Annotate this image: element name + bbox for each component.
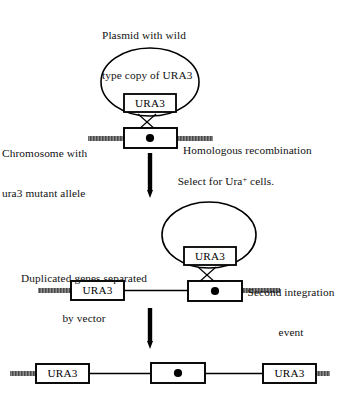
select-ura-label: Select for Ura+ cells. bbox=[166, 162, 296, 202]
homologous-recombination-text: Homologous recombination bbox=[183, 144, 339, 157]
crossover-x-step2 bbox=[198, 267, 216, 283]
plasmid-ura3-label-step2: URA3 bbox=[184, 250, 236, 262]
chromosome-ura3-label-step2: URA3 bbox=[71, 284, 124, 296]
second-integration-line2: event bbox=[243, 326, 339, 339]
chromosome-label-line2: ura3 mutant allele bbox=[2, 187, 94, 200]
second-integration-label: Second integration event bbox=[243, 259, 339, 366]
crossover-x-step1 bbox=[138, 114, 156, 130]
chromosome-label: Chromosome with ura3 mutant allele bbox=[2, 120, 94, 227]
select-ura-suffix: cells. bbox=[247, 175, 274, 187]
second-integration-line1: Second integration bbox=[243, 286, 339, 299]
select-ura-prefix: Select for Ura bbox=[178, 175, 243, 187]
diagram-figure: Plasmid with wild type copy of URA3 Chro… bbox=[0, 0, 340, 397]
plasmid-title: Plasmid with wild type copy of URA3 bbox=[102, 2, 252, 109]
duplicated-genes-label: Duplicated genes separated by vector bbox=[12, 245, 156, 352]
duplicated-genes-line2: by vector bbox=[12, 312, 156, 325]
plasmid-title-line2: type copy of URA3 bbox=[102, 69, 252, 82]
plasmid-ura3-label-step1: URA3 bbox=[124, 97, 176, 109]
result-ura3-label-right: URA3 bbox=[263, 367, 316, 379]
result-ura3-label-left: URA3 bbox=[36, 367, 89, 379]
plasmid-title-line1: Plasmid with wild bbox=[102, 29, 252, 42]
chromosome-label-line1: Chromosome with bbox=[2, 147, 94, 160]
